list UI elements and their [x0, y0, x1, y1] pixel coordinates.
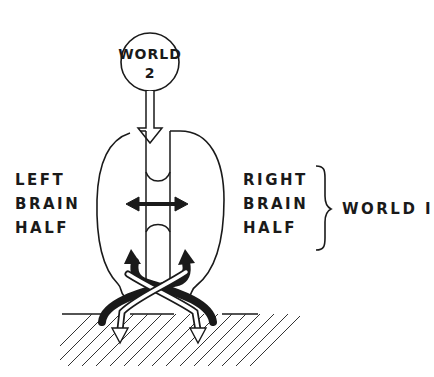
- left-brain-half-label: LEFT BRAIN HALF: [15, 171, 80, 237]
- input-arrowheads-icon: [124, 249, 195, 265]
- left-hemisphere-outline: [97, 133, 130, 296]
- world2-input-arrow-icon: [138, 91, 162, 143]
- world2-label-line1: WORLD: [118, 46, 182, 62]
- svg-text:LEFT: LEFT: [15, 171, 65, 189]
- bidirectional-arrow-icon: [126, 197, 188, 211]
- ground-surface: [40, 314, 302, 366]
- world1-label: WORLD I: [342, 200, 433, 218]
- svg-text:RIGHT: RIGHT: [243, 171, 308, 189]
- svg-text:HALF: HALF: [243, 219, 297, 237]
- svg-text:BRAIN: BRAIN: [15, 195, 80, 213]
- svg-text:HALF: HALF: [15, 219, 69, 237]
- right-brain-half-label: RIGHT BRAIN HALF: [243, 171, 308, 237]
- corpus-callosum-channel: [140, 131, 170, 290]
- world2-label-line2: 2: [145, 65, 156, 81]
- world2-node: WORLD 2: [118, 33, 182, 91]
- curly-brace-icon: [316, 166, 331, 250]
- brain-worlds-diagram: WORLD 2: [0, 0, 434, 377]
- svg-text:BRAIN: BRAIN: [243, 195, 308, 213]
